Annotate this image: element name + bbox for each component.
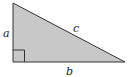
right-triangle-diagram: a c b xyxy=(0,0,128,77)
triangle-shape xyxy=(13,3,125,62)
side-c-label: c xyxy=(73,22,79,35)
side-a-label: a xyxy=(3,27,10,40)
side-b-label: b xyxy=(66,65,73,77)
